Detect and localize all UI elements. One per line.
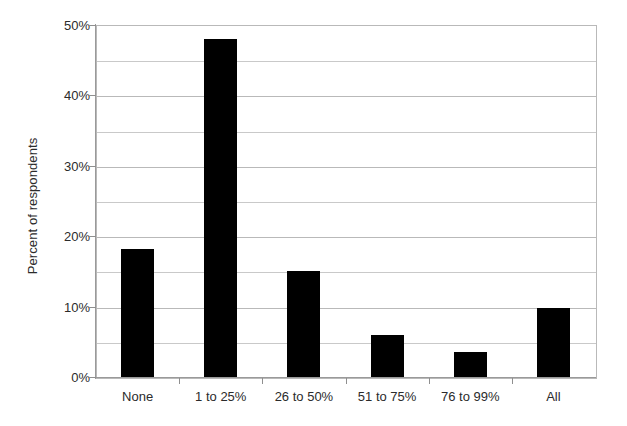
bar-51-to-75: [371, 335, 404, 377]
y-tick-mark-0: [89, 377, 96, 378]
y-tick-label-40: 40%: [4, 88, 90, 103]
y-tick-label-30: 30%: [4, 158, 90, 173]
x-tick-label-all: All: [546, 389, 560, 404]
y-tick-mark-40: [89, 95, 96, 96]
x-tick-label-1-to-25: 1 to 25%: [195, 389, 246, 404]
bar-chart-figure: Percent of respondents 0%10%20%30%40%50%…: [0, 0, 627, 426]
x-tick-mark-4: [429, 378, 430, 384]
y-tick-label-0: 0%: [4, 370, 90, 385]
x-tick-mark-5: [512, 378, 513, 384]
x-tick-label-51-to-75: 51 to 75%: [358, 389, 417, 404]
x-tick-mark-3: [346, 378, 347, 384]
y-tick-label-50: 50%: [4, 18, 90, 33]
y-tick-mark-50: [89, 25, 96, 26]
y-tick-label-20: 20%: [4, 229, 90, 244]
x-tick-label-76-to-99: 76 to 99%: [441, 389, 500, 404]
x-tick-mark-1: [179, 378, 180, 384]
x-tick-mark-2: [262, 378, 263, 384]
y-axis-tick-labels: 0%10%20%30%40%50%: [0, 0, 90, 426]
x-tick-label-26-to-50: 26 to 50%: [275, 389, 334, 404]
y-tick-mark-10: [89, 307, 96, 308]
x-tick-label-none: None: [122, 389, 153, 404]
y-tick-label-10: 10%: [4, 299, 90, 314]
bar-26-to-50: [287, 271, 320, 377]
bars-group: [96, 25, 595, 377]
bar-all: [537, 308, 570, 377]
y-tick-mark-30: [89, 166, 96, 167]
bar-none: [121, 249, 154, 377]
bar-76-to-99: [454, 352, 487, 377]
bar-1-to-25: [204, 39, 237, 377]
y-tick-mark-20: [89, 236, 96, 237]
